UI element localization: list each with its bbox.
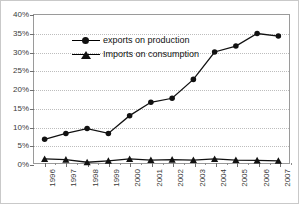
data-point-marker-circle <box>63 131 69 137</box>
x-axis-minor-tick <box>141 163 142 165</box>
x-axis-tick-label: 2007 <box>283 169 292 187</box>
y-axis-tick <box>30 165 34 166</box>
chart-legend: exports on production Imports on consump… <box>70 32 203 64</box>
series-line-imports <box>45 159 279 162</box>
x-axis-tick <box>173 163 174 167</box>
y-axis-tick-label: 30% <box>0 48 29 57</box>
x-axis-tick <box>45 163 46 167</box>
x-axis-tick-label: 2003 <box>198 169 207 187</box>
data-point-marker-circle <box>169 95 175 101</box>
x-axis-tick <box>152 163 153 167</box>
x-axis-minor-tick <box>55 163 56 165</box>
legend-label-imports: Imports on consumption <box>103 49 199 60</box>
x-axis-tick-label: 2000 <box>133 169 142 187</box>
data-point-marker-circle <box>106 131 112 137</box>
x-axis-tick <box>195 163 196 167</box>
x-axis-tick-label: 2006 <box>262 169 271 187</box>
triangle-marker-icon <box>72 49 100 61</box>
x-axis-minor-tick <box>184 163 185 165</box>
x-axis-minor-tick <box>291 163 292 165</box>
x-axis-tick-label: 1997 <box>69 169 78 187</box>
circle-marker-icon <box>72 35 100 47</box>
y-axis-tick-label: 20% <box>0 85 29 94</box>
data-point-marker-circle <box>212 49 218 55</box>
x-axis-minor-tick <box>205 163 206 165</box>
chart-container: 40%35%30%25%20%15%10%5%0% 19961997199819… <box>0 0 300 205</box>
x-axis-tick <box>237 163 238 167</box>
x-axis-tick-label: 2005 <box>240 169 249 187</box>
y-axis-tick-label: 10% <box>0 123 29 132</box>
plot-area: exports on production Imports on consump… <box>33 14 290 164</box>
data-point-marker-circle <box>148 100 154 106</box>
x-axis-minor-tick <box>248 163 249 165</box>
x-axis-tick-label: 2002 <box>176 169 185 187</box>
data-point-marker-circle <box>42 137 48 143</box>
legend-item-exports: exports on production <box>72 34 199 47</box>
data-point-marker-circle <box>84 126 90 132</box>
data-point-marker-circle <box>276 33 282 39</box>
x-axis-minor-tick <box>227 163 228 165</box>
x-axis-tick-label: 2001 <box>155 169 164 187</box>
x-axis-minor-tick <box>120 163 121 165</box>
x-axis-minor-tick <box>163 163 164 165</box>
legend-label-exports: exports on production <box>103 35 190 46</box>
x-axis-minor-tick <box>77 163 78 165</box>
x-axis-minor-tick <box>98 163 99 165</box>
x-axis-tick <box>130 163 131 167</box>
data-point-marker-circle <box>127 113 133 119</box>
data-point-marker-circle <box>254 31 260 37</box>
x-axis-tick <box>66 163 67 167</box>
x-axis-tick-label: 1999 <box>112 169 121 187</box>
y-axis-tick-label: 5% <box>0 141 29 150</box>
x-axis-tick-label: 1996 <box>48 169 57 187</box>
y-axis-tick-label: 15% <box>0 104 29 113</box>
x-axis-tick-label: 1998 <box>91 169 100 187</box>
y-axis-tick-label: 0% <box>0 160 29 169</box>
y-axis-tick-label: 35% <box>0 29 29 38</box>
data-point-marker-circle <box>191 77 197 83</box>
x-axis-tick-label: 2004 <box>219 169 228 187</box>
data-point-marker-circle <box>233 43 239 49</box>
y-axis-tick-label: 40% <box>0 10 29 19</box>
y-axis-tick-label: 25% <box>0 66 29 75</box>
x-axis-minor-tick <box>270 163 271 165</box>
legend-item-imports: Imports on consumption <box>72 48 199 61</box>
x-axis-tick <box>259 163 260 167</box>
x-axis-tick <box>216 163 217 167</box>
